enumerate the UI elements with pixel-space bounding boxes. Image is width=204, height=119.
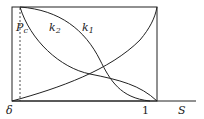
x-axis-label: S bbox=[178, 104, 186, 117]
k1-label: k1 bbox=[82, 21, 94, 35]
chart: Pc k2 k1 δ 1 S bbox=[0, 0, 204, 119]
origin-label: δ bbox=[6, 104, 13, 117]
tick-one-label: 1 bbox=[142, 104, 149, 117]
k2-label: k2 bbox=[49, 21, 61, 35]
